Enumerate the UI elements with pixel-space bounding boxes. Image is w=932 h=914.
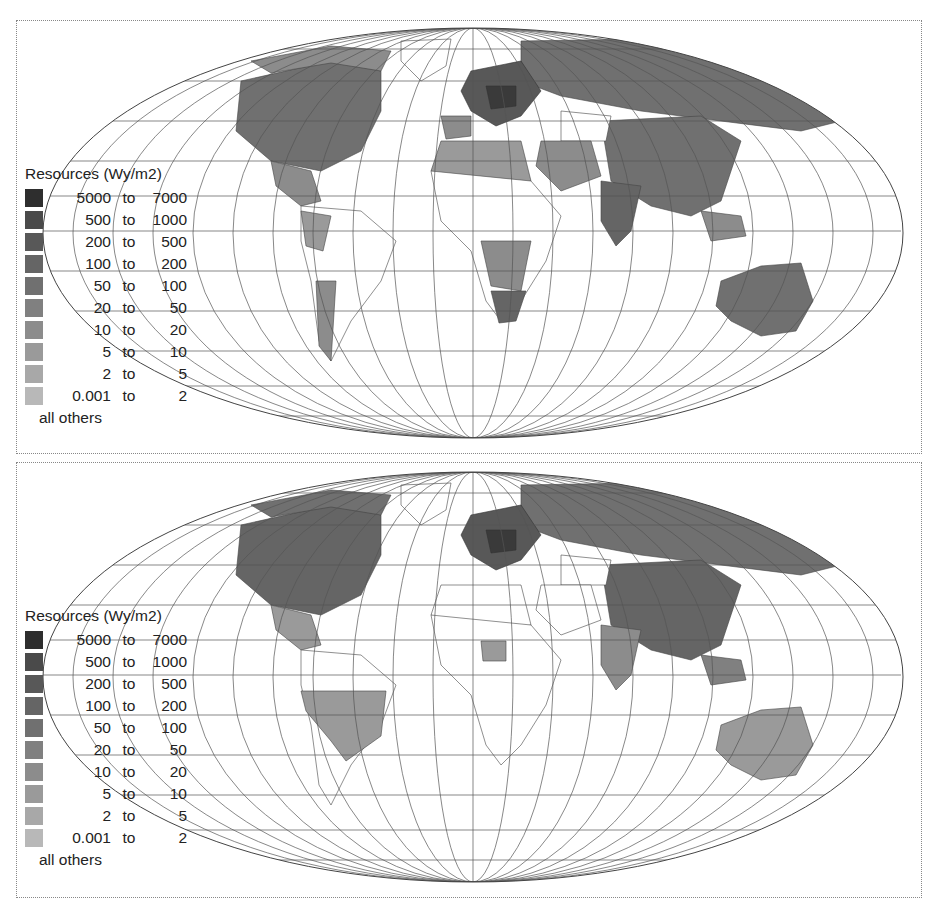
legend-from: 0.001 [51,385,111,407]
legend-others: all others [25,849,187,871]
legend-upto: 2 [143,827,187,849]
legend-upto: 200 [143,253,187,275]
legend-row: 100to200 [25,695,187,717]
legend-from: 50 [51,275,111,297]
legend-swatch [25,255,43,273]
legend-row: 200to500 [25,231,187,253]
legend-swatch [25,807,43,825]
legend-swatch [25,189,43,207]
legend-to: to [115,673,143,695]
legend-swatch [25,233,43,251]
legend-row: 200to500 [25,673,187,695]
legend-to: to [115,253,143,275]
legend-upto: 10 [143,783,187,805]
legend-row: 50to100 [25,275,187,297]
legend-to: to [115,187,143,209]
legend-swatch [25,829,43,847]
legend-swatch [25,785,43,803]
legend-upto: 20 [143,319,187,341]
legend-to: to [115,297,143,319]
legend-row: 10to20 [25,319,187,341]
legend-to: to [115,209,143,231]
legend-upto: 5 [143,363,187,385]
legend-from: 500 [51,651,111,673]
legend-from: 2 [51,363,111,385]
legend-from: 5000 [51,629,111,651]
legend-upto: 200 [143,695,187,717]
legend-row: 5to10 [25,341,187,363]
legend-row: 2to5 [25,363,187,385]
legend-swatch [25,387,43,405]
legend-to: to [115,385,143,407]
legend-to: to [115,341,143,363]
legend-from: 10 [51,761,111,783]
legend-swatch [25,277,43,295]
land-regions-top [236,39,841,361]
legend-row: 10to20 [25,761,187,783]
legend-to: to [115,761,143,783]
legend-swatch [25,631,43,649]
legend-to: to [115,275,143,297]
legend-to: to [115,629,143,651]
legend-upto: 1000 [143,209,187,231]
legend-upto: 1000 [143,651,187,673]
legend-from: 200 [51,231,111,253]
legend-to: to [115,231,143,253]
legend-swatch [25,763,43,781]
legend-swatch [25,719,43,737]
legend-upto: 10 [143,341,187,363]
map-panel-bottom: Resources (Wy/m2) 5000to7000 500to1000 2… [16,462,922,898]
legend-from: 2 [51,805,111,827]
legend-row: 20to50 [25,739,187,761]
land-regions-bottom [236,483,841,805]
legend-row: 100to200 [25,253,187,275]
legend-from: 5 [51,341,111,363]
legend-from: 5000 [51,187,111,209]
legend-upto: 100 [143,275,187,297]
legend-top: Resources (Wy/m2) 5000to7000 500to1000 2… [25,163,187,429]
legend-swatch [25,211,43,229]
legend-upto: 7000 [143,187,187,209]
legend-upto: 500 [143,673,187,695]
legend-to: to [115,651,143,673]
legend-row: 0.001to2 [25,827,187,849]
legend-swatch [25,741,43,759]
legend-row: 500to1000 [25,209,187,231]
legend-bottom: Resources (Wy/m2) 5000to7000 500to1000 2… [25,605,187,871]
legend-row: 5000to7000 [25,629,187,651]
map-panel-top: Resources (Wy/m2) 5000to7000 500to1000 2… [16,20,922,454]
legend-from: 200 [51,673,111,695]
legend-row: 20to50 [25,297,187,319]
legend-from: 100 [51,695,111,717]
legend-swatch [25,299,43,317]
legend-upto: 50 [143,297,187,319]
legend-from: 100 [51,253,111,275]
legend-from: 5 [51,783,111,805]
legend-from: 500 [51,209,111,231]
legend-from: 20 [51,297,111,319]
legend-upto: 500 [143,231,187,253]
legend-title: Resources (Wy/m2) [25,605,187,627]
legend-from: 10 [51,319,111,341]
legend-upto: 50 [143,739,187,761]
legend-upto: 20 [143,761,187,783]
legend-swatch [25,653,43,671]
legend-swatch [25,365,43,383]
legend-swatch [25,697,43,715]
legend-from: 0.001 [51,827,111,849]
legend-upto: 7000 [143,629,187,651]
legend-title: Resources (Wy/m2) [25,163,187,185]
legend-to: to [115,363,143,385]
legend-to: to [115,783,143,805]
legend-from: 20 [51,739,111,761]
legend-row: 0.001to2 [25,385,187,407]
legend-row: 50to100 [25,717,187,739]
legend-row: 500to1000 [25,651,187,673]
legend-to: to [115,805,143,827]
legend-swatch [25,343,43,361]
legend-upto: 100 [143,717,187,739]
legend-to: to [115,695,143,717]
legend-upto: 5 [143,805,187,827]
legend-to: to [115,319,143,341]
legend-row: 5to10 [25,783,187,805]
